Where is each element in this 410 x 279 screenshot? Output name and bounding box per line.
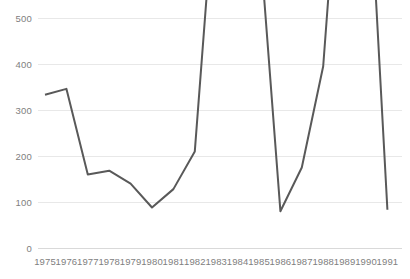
- x-axis-tick-label: 1989: [334, 256, 356, 267]
- series-line-svg: [38, 0, 402, 252]
- x-axis-tick-label: 1986: [270, 256, 292, 267]
- y-axis-tick-label: 200: [16, 151, 32, 162]
- x-axis-tick-label: 1991: [377, 256, 399, 267]
- x-axis-tick-label: 1980: [141, 256, 163, 267]
- x-axis-tick-label: 1990: [355, 256, 377, 267]
- y-axis-tick-label: 300: [16, 105, 32, 116]
- y-axis-tick-label: 500: [16, 13, 32, 24]
- x-axis-tick-label: 1983: [205, 256, 227, 267]
- y-axis-tick-label: 400: [16, 59, 32, 70]
- x-axis-tick-label: 1984: [227, 256, 249, 267]
- plot-area: [38, 0, 402, 252]
- y-axis-tick-labels: 500 400 300 200 100 0: [0, 0, 36, 279]
- x-axis-tick-label: 1982: [184, 256, 206, 267]
- x-axis-tick-label: 1977: [77, 256, 99, 267]
- x-axis-tick-label: 1979: [120, 256, 142, 267]
- y-axis-tick-label: 0: [27, 243, 32, 254]
- x-axis-tick-label: 1978: [98, 256, 120, 267]
- x-axis-tick-label: 1985: [248, 256, 270, 267]
- line-chart: 500 400 300 200 100 0 1975 1976 1977 197…: [0, 0, 410, 279]
- x-axis-tick-label: 1981: [163, 256, 185, 267]
- x-axis-tick-labels: 1975 1976 1977 1978 1979 1980 1981 1982 …: [38, 256, 402, 276]
- x-axis-tick-label: 1975: [34, 256, 56, 267]
- y-axis-tick-label: 100: [16, 197, 32, 208]
- x-axis-tick-label: 1987: [291, 256, 313, 267]
- x-axis-tick-label: 1988: [312, 256, 334, 267]
- series-1-line: [45, 0, 387, 211]
- x-axis-tick-label: 1976: [56, 256, 78, 267]
